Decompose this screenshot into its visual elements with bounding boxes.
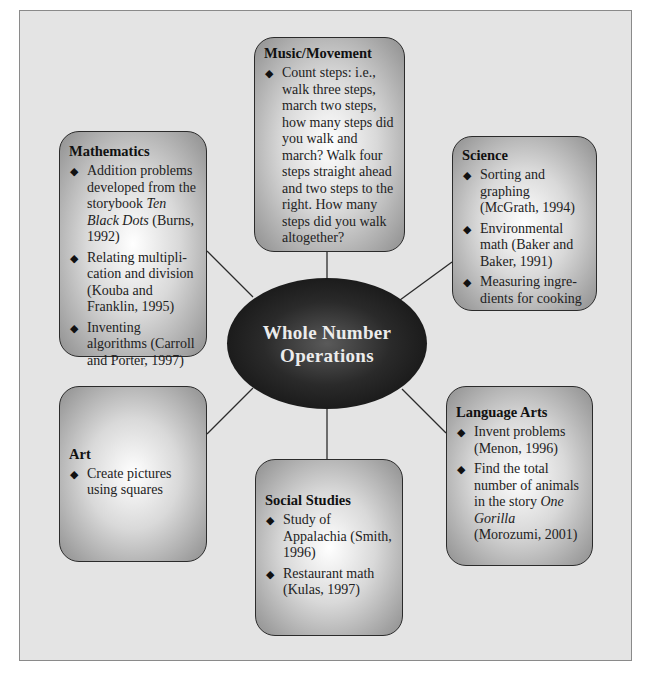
- node-title: Science: [462, 147, 588, 164]
- diamond-bullet-icon: ◆: [463, 167, 471, 184]
- figure-caption-clipped: [18, 670, 638, 680]
- diamond-bullet-icon: ◆: [457, 424, 465, 441]
- diamond-bullet-icon: ◆: [266, 566, 274, 583]
- list-item: ◆ Restaurant math (Kulas, 1997): [265, 566, 394, 599]
- hub-title: Whole Number Operations: [263, 321, 392, 367]
- diamond-bullet-icon: ◆: [266, 512, 274, 529]
- node-list: ◆ Sorting and graphing (McGrath, 1994) ◆…: [462, 167, 588, 307]
- list-item: ◆ Environmental math (Baker and Baker, 1…: [462, 221, 588, 271]
- list-item: ◆ Invent problems (Menon, 1996): [456, 424, 584, 457]
- diamond-bullet-icon: ◆: [70, 320, 78, 337]
- list-item: ◆ Measuring ingre-dients for cooking: [462, 274, 588, 307]
- node-title: Music/Movement: [264, 45, 396, 62]
- node-list: ◆ Study of Appalachia (Smith, 1996) ◆ Re…: [265, 512, 394, 603]
- node-title: Social Studies: [265, 492, 394, 509]
- node-list: ◆ Create pictures using squares: [69, 466, 198, 503]
- diamond-bullet-icon: ◆: [457, 461, 465, 478]
- node-social-studies: Social Studies ◆ Study of Appalachia (Sm…: [255, 459, 403, 636]
- list-item: ◆ Find the total number of animals in th…: [456, 461, 584, 544]
- list-item: ◆ Count steps: i.e., walk three steps, m…: [264, 65, 396, 247]
- node-art: Art ◆ Create pictures using squares: [59, 386, 207, 562]
- link-science: [400, 262, 452, 300]
- diamond-bullet-icon: ◆: [463, 221, 471, 238]
- diamond-bullet-icon: ◆: [265, 65, 273, 82]
- list-item: ◆ Sorting and graphing (McGrath, 1994): [462, 167, 588, 217]
- list-item: ◆ Study of Appalachia (Smith, 1996): [265, 512, 394, 562]
- diamond-bullet-icon: ◆: [70, 466, 78, 483]
- list-item: ◆ Relating multipli-cation and division …: [69, 250, 198, 316]
- hub-ellipse: Whole Number Operations: [227, 278, 427, 409]
- diamond-bullet-icon: ◆: [70, 163, 78, 180]
- diamond-bullet-icon: ◆: [463, 274, 471, 291]
- list-item: ◆ Inventing algorithms (Carroll and Port…: [69, 320, 198, 370]
- list-item: ◆ Addition problems developed from the s…: [69, 163, 198, 246]
- node-list: ◆ Invent problems (Menon, 1996) ◆ Find t…: [456, 424, 584, 548]
- node-language-arts: Language Arts ◆ Invent problems (Menon, …: [446, 386, 593, 566]
- link-language-arts: [402, 389, 446, 433]
- node-mathematics: Mathematics ◆ Addition problems develope…: [59, 131, 207, 357]
- diamond-bullet-icon: ◆: [70, 250, 78, 267]
- node-list: ◆ Count steps: i.e., walk three steps, m…: [264, 65, 396, 247]
- node-science: Science ◆ Sorting and graphing (McGrath,…: [452, 136, 597, 311]
- node-title: Mathematics: [69, 143, 198, 160]
- node-title: Art: [69, 446, 198, 463]
- node-list: ◆ Addition problems developed from the s…: [69, 163, 198, 369]
- link-mathematics: [207, 251, 253, 297]
- list-item: ◆ Create pictures using squares: [69, 466, 198, 499]
- node-title: Language Arts: [456, 404, 584, 421]
- link-art: [207, 388, 253, 434]
- node-music-movement: Music/Movement ◆ Count steps: i.e., walk…: [254, 37, 405, 252]
